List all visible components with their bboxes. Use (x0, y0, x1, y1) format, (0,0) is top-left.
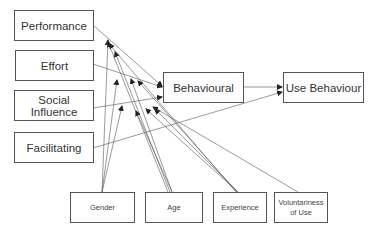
behavioural-label: Behavioural (173, 82, 234, 94)
social-influence-label: Social Influence (15, 94, 93, 118)
facilitating-label: Facilitating (27, 142, 82, 154)
age-label: Age (167, 203, 180, 213)
effort-label: Effort (41, 60, 68, 72)
gender-label: Gender (90, 203, 115, 213)
use-behaviour-box: Use Behaviour (283, 72, 364, 103)
experience-label: Experience (221, 203, 259, 213)
experience-box: Experience (213, 192, 267, 223)
arrow-social-behavioural (93, 97, 162, 108)
gender-box: Gender (70, 192, 135, 223)
age-box: Age (145, 192, 203, 223)
effort-box: Effort (15, 50, 94, 81)
performance-box: Performance (14, 10, 94, 41)
behavioural-box: Behavioural (163, 72, 244, 103)
social-influence-box: Social Influence (14, 90, 94, 121)
arrow-performance-behavioural (93, 25, 162, 86)
voluntariness-label: Voluntariness of Use (278, 198, 324, 218)
performance-label: Performance (21, 20, 87, 32)
voluntariness-box: Voluntariness of Use (274, 192, 328, 223)
use-behaviour-label: Use Behaviour (286, 82, 361, 94)
facilitating-box: Facilitating (14, 132, 94, 163)
